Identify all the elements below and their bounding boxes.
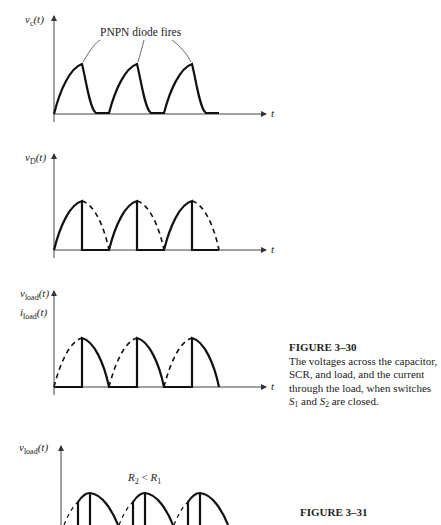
y-axis-label: vc(t) <box>25 13 44 28</box>
waveform-figure: vc(t) t PNPN diode fires vD(t) t vload(t… <box>0 0 441 525</box>
panel-capacitor-voltage: vc(t) t PNPN diode fires <box>25 13 275 122</box>
x-axis-label: t <box>271 243 275 255</box>
figure-3-31-caption: FIGURE 3–31 <box>300 506 440 520</box>
y-axis-label-voltage: vload(t) <box>20 287 49 302</box>
annotation-leader-lines <box>83 40 191 62</box>
figure-3-30-caption: FIGURE 3–30 The voltages across the capa… <box>289 341 439 409</box>
y-axis-label: vload(t) <box>19 441 48 456</box>
figure-3-30-title: FIGURE 3–30 <box>289 341 439 355</box>
scr-voltage-curve <box>54 201 219 250</box>
caption-line: through the load, when switches <box>289 382 431 394</box>
load-voltage-r2-curve <box>78 493 228 525</box>
annotation-diode-fires: PNPN diode fires <box>100 26 182 38</box>
panel-load-voltage-current: vload(t) iload(t) t <box>20 287 275 395</box>
panel-load-voltage-r2: vload(t) R2 < R1 <box>19 441 228 525</box>
scr-voltage-dashed-continuation <box>82 201 219 250</box>
x-axis-label: t <box>271 107 275 119</box>
caption-line: The voltages across the capacitor, <box>289 355 437 367</box>
load-voltage-r2-dashed-rise <box>64 502 188 525</box>
capacitor-voltage-curve <box>54 64 219 114</box>
caption-and: and <box>298 395 319 407</box>
caption-end: are closed. <box>329 395 379 407</box>
y-axis-label-current: iload(t) <box>20 306 48 321</box>
panel-scr-voltage: vD(t) t <box>25 151 275 258</box>
y-axis-label: vD(t) <box>25 151 46 166</box>
load-curve-dashed-rise <box>54 338 192 387</box>
caption-line: SCR, and load, and the current <box>289 368 424 380</box>
figure-3-31-title: FIGURE 3–31 <box>300 506 440 520</box>
annotation-r2-less-r1: R2 < R1 <box>127 471 161 486</box>
load-curve <box>54 338 219 387</box>
x-axis-label: t <box>271 380 275 392</box>
